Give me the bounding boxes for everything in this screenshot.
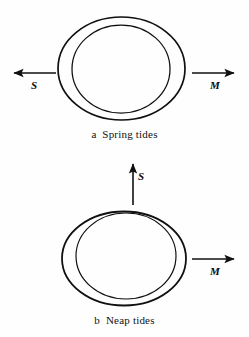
- spring-earth-circle: [72, 25, 170, 113]
- neap-earth-circle: [76, 213, 176, 299]
- neap-sun-label: S: [138, 170, 144, 182]
- spring-sun-label: S: [31, 79, 37, 91]
- neap-moon-label: M: [210, 265, 220, 277]
- neap-tides-caption: b Neap tides: [0, 314, 249, 326]
- panel-neap-tides: [62, 164, 234, 306]
- tides-figure: S M S M a Spring tides b Neap tides: [0, 0, 249, 337]
- tides-diagram-canvas: [0, 0, 249, 337]
- spring-tides-caption: a Spring tides: [0, 128, 249, 140]
- neap-tidal-bulge-ellipse: [62, 212, 186, 306]
- spring-tidal-bulge-ellipse: [58, 17, 185, 120]
- spring-moon-label: M: [210, 79, 220, 91]
- panel-spring-tides: [14, 17, 234, 120]
